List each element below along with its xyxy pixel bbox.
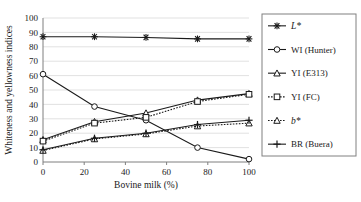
- data-point-marker: [195, 99, 201, 105]
- data-point-marker: [92, 104, 98, 110]
- x-axis-tick-label: 0: [41, 167, 46, 177]
- y-axis-tick-label: 10: [29, 143, 39, 153]
- y-axis-tick-label: 40: [29, 100, 39, 110]
- legend-item-label: BR (Buera): [291, 139, 333, 149]
- y-axis-tick-label: 20: [29, 128, 39, 138]
- data-point-marker: [274, 47, 280, 53]
- y-axis-tick-label: 100: [25, 13, 39, 23]
- data-point-marker: [92, 120, 98, 126]
- legend-item-label: YI (E313): [291, 68, 328, 78]
- legend-item-label: b*: [291, 116, 301, 126]
- y-axis-tick-label: 30: [29, 114, 39, 124]
- x-axis-tick-label: 20: [80, 167, 90, 177]
- legend-item-label: YI (FC): [291, 92, 320, 102]
- x-axis-tick-label: 100: [242, 167, 256, 177]
- data-point-marker: [195, 145, 201, 151]
- y-axis-tick-label: 60: [29, 71, 39, 81]
- x-axis-title: Bovine milk (%): [114, 180, 178, 191]
- legend-box: [262, 14, 356, 156]
- y-axis-tick-label: 70: [29, 56, 39, 66]
- x-axis-tick-label: 40: [121, 167, 131, 177]
- y-axis-tick-label: 80: [29, 42, 39, 52]
- chart-figure: 0102030405060708090100020406080100Bovine…: [0, 0, 361, 202]
- y-axis-tick-label: 0: [34, 157, 39, 167]
- data-point-marker: [143, 115, 149, 121]
- y-axis-tick-label: 50: [29, 85, 39, 95]
- y-axis-title: Whiteness and yellowness indices: [4, 25, 14, 155]
- data-point-marker: [40, 71, 46, 77]
- legend-item-label: WI (Hunter): [291, 45, 336, 55]
- y-axis-tick-label: 90: [29, 28, 39, 38]
- data-point-marker: [246, 92, 252, 98]
- data-point-marker: [40, 138, 46, 144]
- legend-item-label: L*: [290, 21, 301, 31]
- data-point-marker: [246, 156, 252, 162]
- line-chart: 0102030405060708090100020406080100Bovine…: [0, 0, 361, 202]
- x-axis-tick-label: 80: [203, 167, 213, 177]
- data-point-marker: [274, 94, 280, 100]
- x-axis-tick-label: 60: [162, 167, 172, 177]
